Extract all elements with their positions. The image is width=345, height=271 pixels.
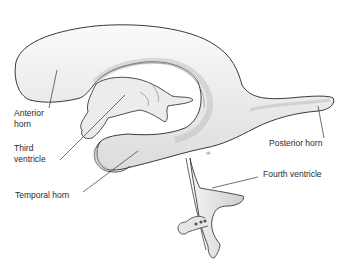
- label-posterior-horn: Posterior horn: [269, 138, 322, 149]
- choroid-bead: [194, 222, 197, 225]
- fourth-ventricle-shape: [190, 158, 244, 258]
- ventricle-illustration: W.: [0, 0, 345, 271]
- ventricle-diagram: W. Anterior horn Third ventricle Tempora…: [0, 0, 345, 271]
- leader-fourth-ventricle: [212, 177, 258, 188]
- artist-signature: W.: [206, 150, 212, 156]
- label-temporal-horn: Temporal horn: [15, 190, 69, 201]
- third-ventricle-shape: [81, 77, 193, 138]
- choroid-bead: [199, 220, 202, 223]
- label-fourth-ventricle: Fourth ventricle: [263, 169, 322, 180]
- label-anterior-horn: Anterior horn: [14, 108, 44, 130]
- label-third-ventricle: Third ventricle: [14, 143, 46, 165]
- choroid-bead: [203, 219, 206, 222]
